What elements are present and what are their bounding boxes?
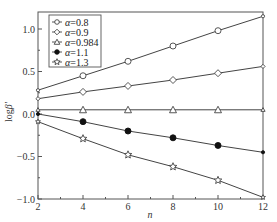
star-open-marker bbox=[261, 195, 266, 200]
series-line bbox=[38, 114, 263, 152]
triangle-open-marker bbox=[36, 108, 40, 112]
circle-filled-marker bbox=[170, 135, 176, 141]
star-open-marker bbox=[214, 176, 222, 183]
y-tick-label: −0.5 bbox=[17, 151, 35, 162]
x-tick-label: 2 bbox=[36, 201, 41, 212]
series-0.984 bbox=[36, 106, 265, 113]
triangle-open-marker bbox=[261, 108, 265, 112]
star-open-marker bbox=[36, 119, 41, 124]
circle-filled-marker bbox=[80, 119, 86, 125]
legend-label: α=1.3 bbox=[65, 57, 88, 68]
diamond-open-marker bbox=[261, 64, 265, 68]
series-line bbox=[38, 66, 263, 98]
y-tick-label: 1.0 bbox=[23, 24, 36, 35]
y-axis-label: logβ' bbox=[3, 101, 14, 122]
circle-open-marker bbox=[125, 58, 131, 64]
star-open-marker bbox=[124, 151, 132, 158]
chart-canvas: 24681012−1.0−0.50.00.51.0 α=0.8α=0.9α=0.… bbox=[0, 0, 277, 222]
x-tick-label: 4 bbox=[81, 201, 86, 212]
circle-open-marker bbox=[215, 28, 221, 34]
circle-filled-marker bbox=[215, 142, 221, 148]
diamond-open-marker bbox=[125, 82, 132, 89]
y-tick-label: −1.0 bbox=[17, 194, 35, 205]
circle-filled-marker bbox=[125, 128, 131, 134]
circle-open-marker bbox=[170, 43, 176, 49]
x-tick-label: 8 bbox=[171, 201, 176, 212]
x-tick-label: 10 bbox=[213, 201, 223, 212]
circle-open-marker bbox=[261, 15, 264, 18]
x-axis-label: n bbox=[148, 209, 153, 220]
x-tick-label: 12 bbox=[258, 201, 268, 212]
circle-open-marker bbox=[36, 89, 39, 92]
x-tick-label: 6 bbox=[126, 201, 131, 212]
circle-filled-marker bbox=[261, 151, 264, 154]
circle-open-marker bbox=[55, 20, 60, 25]
y-tick-label: 0.5 bbox=[23, 66, 36, 77]
legend: α=0.8α=0.9α=0.984α=1.1α=1.3 bbox=[49, 15, 101, 68]
star-open-marker bbox=[79, 135, 87, 142]
y-tick-label: 0.0 bbox=[23, 109, 36, 120]
circle-filled-marker bbox=[36, 112, 39, 115]
star-open-marker bbox=[169, 163, 177, 170]
series-0.9 bbox=[36, 64, 265, 101]
diamond-open-marker bbox=[36, 97, 40, 101]
circle-open-marker bbox=[80, 73, 86, 79]
series-1.3 bbox=[36, 119, 266, 199]
series-1.1 bbox=[36, 112, 264, 153]
diamond-open-marker bbox=[80, 88, 87, 95]
series-line bbox=[38, 122, 263, 198]
diamond-open-marker bbox=[215, 70, 222, 77]
diamond-open-marker bbox=[170, 77, 177, 84]
circle-filled-marker bbox=[55, 50, 60, 55]
